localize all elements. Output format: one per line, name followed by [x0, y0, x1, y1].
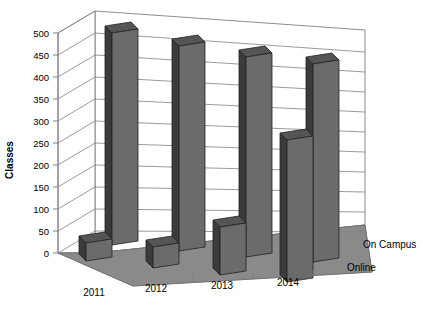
bar-online-2014[interactable] [280, 129, 313, 282]
y-tick-label: 0 [44, 248, 49, 259]
y-tick-label: 200 [33, 160, 49, 171]
y-tick-label: 450 [33, 50, 49, 61]
y-tick-label: 350 [33, 94, 49, 105]
bar-on-campus-2011[interactable] [105, 22, 138, 245]
x-tick-label-2012: 2012 [145, 283, 168, 294]
y-tick-label: 150 [33, 182, 49, 193]
chart-container: 500 450 400 350 300 250 200 150 100 50 0… [0, 0, 423, 309]
bar-online-2012[interactable] [146, 236, 179, 268]
legend-label-online: Online [347, 262, 376, 273]
bar-chart-3d: 500 450 400 350 300 250 200 150 100 50 0… [0, 0, 423, 309]
y-axis-title-group: Classes [4, 141, 15, 179]
bar-online-2013[interactable] [213, 216, 246, 275]
y-axis [53, 33, 58, 253]
y-tick-labels: 500 450 400 350 300 250 200 150 100 50 0 [33, 28, 49, 259]
bar-on-campus-2012[interactable] [172, 35, 205, 251]
y-tick-label: 300 [33, 116, 49, 127]
bar-online-2011[interactable] [79, 232, 112, 261]
y-tick-label: 500 [33, 28, 49, 39]
x-tick-label-2013: 2013 [211, 280, 234, 291]
y-tick-label: 100 [33, 204, 49, 215]
y-axis-title: Classes [4, 141, 15, 179]
x-tick-label-2014: 2014 [277, 277, 300, 288]
y-tick-label: 50 [38, 226, 49, 237]
x-tick-label-2011: 2011 [83, 287, 105, 298]
legend-label-on-campus: On Campus [363, 239, 416, 250]
y-tick-label: 250 [33, 138, 49, 149]
y-tick-label: 400 [33, 72, 49, 83]
